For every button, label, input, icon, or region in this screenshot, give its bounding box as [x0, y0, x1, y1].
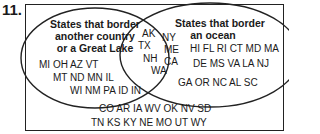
left-set-row: MI OH AZ VT: [39, 59, 98, 70]
outside-row: CO AR IA WV OK NV SD: [99, 103, 211, 114]
intersection-item: WA: [151, 65, 167, 76]
right-set-row: DE MS VA LA NJ: [193, 58, 269, 69]
intersection-item: TX: [138, 40, 151, 51]
left-set-row: MT ND MN IL: [53, 72, 114, 83]
intersection-item: AK: [142, 28, 155, 39]
left-set-label: States that border another country or a …: [50, 18, 140, 54]
intersection-item: NH: [143, 53, 157, 64]
intersection-item: ME: [164, 44, 179, 55]
right-set-row: HI FL RI CT MD MA: [190, 43, 279, 54]
right-set-label: States that border an ocean: [170, 17, 270, 41]
right-set-row: GA OR NC AL SC: [178, 77, 258, 88]
outside-row: TN KS KY NE MO UT WY: [91, 117, 207, 128]
left-set-row: WI NM PA ID IN: [70, 85, 141, 96]
